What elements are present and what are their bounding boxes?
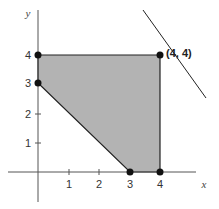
vertex-point-3-0 [127, 169, 134, 176]
x-tick-label-2: 2 [96, 178, 102, 190]
vertex-point-0-4 [35, 52, 42, 59]
diagram-canvas: 1 2 3 4 1 2 3 4 x y (4, 4) [0, 0, 219, 209]
x-tick-label-4: 4 [157, 178, 163, 190]
vertex-point-4-0 [157, 169, 164, 176]
y-tick-label-1: 1 [25, 137, 31, 149]
y-axis-label: y [25, 7, 31, 19]
point-label-4-4: (4, 4) [166, 47, 192, 59]
feasible-region [38, 55, 160, 172]
x-tick-label-3: 3 [127, 178, 133, 190]
y-tick-label-4: 4 [25, 49, 31, 61]
vertex-point-4-4 [157, 52, 164, 59]
x-tick-label-1: 1 [66, 178, 72, 190]
x-axis-label: x [201, 178, 207, 190]
y-tick-label-3: 3 [25, 77, 31, 89]
y-tick-label-2: 2 [25, 108, 31, 120]
vertex-point-0-3 [35, 80, 42, 87]
